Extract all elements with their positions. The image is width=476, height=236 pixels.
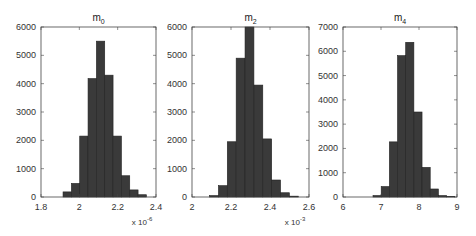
y-tick-label: 4000 xyxy=(318,95,338,105)
x-tick-label: 9 xyxy=(454,202,459,212)
histogram-bar xyxy=(263,139,272,197)
x-tick-label: 2.4 xyxy=(150,202,163,212)
histogram-bar xyxy=(105,75,113,197)
x-tick-label: 1.8 xyxy=(35,202,48,212)
histogram-bar xyxy=(88,79,96,197)
histogram-bar xyxy=(130,190,138,197)
x-tick-label: 2.2 xyxy=(225,202,238,212)
y-tick-label: 0 xyxy=(333,192,338,202)
x-tick-label: 6 xyxy=(340,202,345,212)
histogram-bar xyxy=(430,189,438,197)
chart-title: m4 xyxy=(394,12,406,25)
y-tick-label: 0 xyxy=(31,192,36,202)
y-tick-label: 7000 xyxy=(318,22,338,32)
y-tick-label: 4000 xyxy=(167,79,187,89)
y-tick-label: 0 xyxy=(182,192,187,202)
x-tick-label: 2.6 xyxy=(303,202,316,212)
histogram-bar xyxy=(63,192,71,197)
histogram-bar xyxy=(389,142,397,197)
histogram-bar xyxy=(121,176,129,197)
histogram-bar xyxy=(218,186,227,197)
x-tick-label: 7 xyxy=(378,202,383,212)
histogram-bar xyxy=(398,56,406,197)
histogram-bar xyxy=(422,167,430,197)
histogram-bar xyxy=(227,142,236,197)
y-tick-label: 3000 xyxy=(16,107,36,117)
x-tick-label: 8 xyxy=(416,202,421,212)
histogram-bar xyxy=(236,58,245,197)
histogram-bar xyxy=(71,183,79,197)
y-tick-label: 1000 xyxy=(16,164,36,174)
histogram-bar xyxy=(406,42,414,197)
y-tick-label: 2000 xyxy=(167,135,187,145)
histogram-figure: 01000200030004000500060001.822.22.4m0x 1… xyxy=(0,0,476,236)
y-tick-label: 5000 xyxy=(16,50,36,60)
y-tick-label: 1000 xyxy=(167,164,187,174)
histogram-panel-2: 010002000300040005000600070006789m4 xyxy=(318,12,460,212)
x-exponent-label: x 10-6 xyxy=(132,216,153,227)
x-tick-label: 2 xyxy=(77,202,82,212)
y-tick-label: 2000 xyxy=(318,143,338,153)
y-tick-label: 5000 xyxy=(318,71,338,81)
y-tick-label: 6000 xyxy=(167,22,187,32)
y-tick-label: 3000 xyxy=(318,119,338,129)
y-tick-label: 6000 xyxy=(318,46,338,56)
y-tick-label: 3000 xyxy=(167,107,187,117)
y-tick-label: 5000 xyxy=(167,50,187,60)
y-tick-label: 6000 xyxy=(16,22,36,32)
chart-title: m2 xyxy=(244,12,256,25)
histogram-panel-0: 01000200030004000500060001.822.22.4m0x 1… xyxy=(16,12,162,227)
x-tick-label: 2.4 xyxy=(264,202,277,212)
histogram-bar xyxy=(414,112,422,197)
x-tick-label: 2.2 xyxy=(111,202,124,212)
y-tick-label: 2000 xyxy=(16,135,36,145)
histogram-bar xyxy=(96,41,104,197)
y-tick-label: 4000 xyxy=(16,79,36,89)
histogram-bar xyxy=(245,27,254,197)
histogram-bar xyxy=(254,85,263,197)
histogram-bar xyxy=(80,136,88,197)
histogram-bar xyxy=(272,180,281,197)
histogram-panel-1: 010002000300040005000600022.22.42.6m2x 1… xyxy=(167,12,315,227)
histogram-bar xyxy=(281,193,290,197)
y-tick-label: 1000 xyxy=(318,168,338,178)
histogram-bar xyxy=(113,136,121,197)
x-exponent-label: x 10-3 xyxy=(285,216,306,227)
histogram-bar xyxy=(381,187,389,197)
x-tick-label: 2 xyxy=(189,202,194,212)
chart-title: m0 xyxy=(92,12,104,25)
